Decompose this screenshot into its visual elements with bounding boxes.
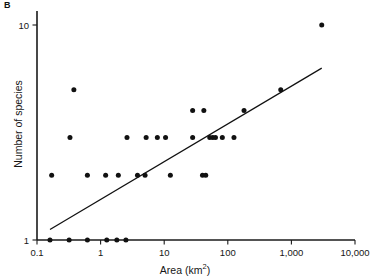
scatter-plot-canvas: 0.11101001,00010,000110 [0, 0, 370, 278]
data-point [163, 135, 168, 140]
data-point [85, 238, 90, 243]
data-point [319, 23, 324, 28]
data-point [47, 238, 52, 243]
data-point [85, 173, 90, 178]
data-point [168, 173, 173, 178]
data-point [116, 173, 121, 178]
data-point [242, 108, 247, 113]
fit-line-group [50, 68, 322, 229]
y-tick-label: 1 [24, 235, 29, 246]
data-point [114, 238, 119, 243]
species-area-figure: B Number of species Area (km2) 0.1110100… [0, 0, 370, 278]
regression-line [50, 68, 322, 229]
x-tick-label: 1,000 [280, 247, 304, 258]
data-point [190, 108, 195, 113]
data-point [155, 135, 160, 140]
data-point [124, 135, 129, 140]
data-point [144, 135, 149, 140]
data-point [104, 238, 109, 243]
data-point [135, 173, 140, 178]
data-point [190, 135, 195, 140]
data-point [67, 238, 72, 243]
x-tick-label: 1 [98, 247, 103, 258]
data-point [49, 173, 54, 178]
data-point [71, 87, 76, 92]
x-tick-label: 100 [220, 247, 236, 258]
data-point [143, 173, 148, 178]
y-tick-label: 10 [18, 20, 29, 31]
data-point [123, 238, 128, 243]
data-points-group [47, 23, 324, 243]
x-tick-label: 10,000 [340, 247, 369, 258]
data-point [103, 173, 108, 178]
data-point [213, 135, 218, 140]
data-point [203, 173, 208, 178]
axis-group [37, 11, 355, 240]
data-point [201, 108, 206, 113]
data-point [231, 135, 236, 140]
data-point [220, 135, 225, 140]
data-point [278, 87, 283, 92]
x-tick-label: 10 [159, 247, 170, 258]
x-tick-label: 0.1 [30, 247, 43, 258]
data-point [67, 135, 72, 140]
